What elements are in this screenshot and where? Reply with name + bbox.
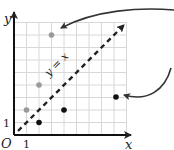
curved-arrow-top-icon [61,9,174,28]
y-tick-label: 1 [3,117,10,130]
gray-point-1-2 [24,107,30,113]
black-point-2-1 [36,120,42,126]
line-label: y = x [41,49,72,80]
curved-arrow-right-icon [124,68,171,97]
black-point-8-4 [113,94,119,100]
gray-point-2-4 [36,82,42,88]
x-axis-label: x [125,137,133,150]
line-y-equals-x [18,25,124,131]
coordinate-diagram: y = x y x O 1 1 [0,0,174,150]
x-tick-label: 1 [23,138,30,150]
gray-point-3-8 [49,32,55,38]
black-point-4-2 [61,107,67,113]
y-axis-label: y [3,11,12,26]
origin-label: O [1,136,12,150]
